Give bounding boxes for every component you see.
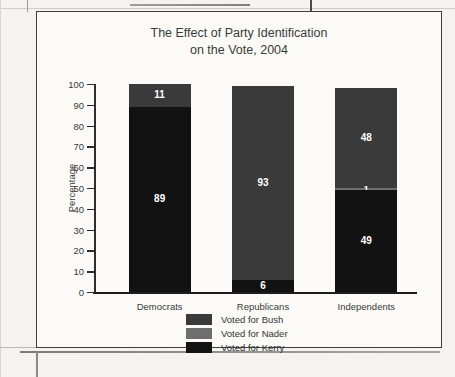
bar-segment-value-label: 48 [361, 133, 372, 143]
bar-segment[interactable]: 6 [232, 280, 294, 292]
scan-artifact-left-edge [0, 0, 1, 377]
chart-title-line-2: on the Vote, 2004 [37, 42, 441, 59]
y-axis-tick-label: 20 [73, 245, 84, 256]
y-axis-tick [87, 292, 94, 293]
x-axis-category-label: Independents [338, 301, 396, 312]
legend-color-swatch [186, 314, 212, 325]
y-axis-tick-label: 0 [79, 287, 84, 298]
legend-item-label: Voted for Bush [221, 314, 283, 325]
bar-segment-value-label: 93 [257, 178, 268, 188]
bar-segment[interactable]: 49 [335, 190, 397, 292]
x-axis-line [93, 292, 417, 294]
bar-group[interactable]: 936Republicans [232, 86, 294, 292]
y-axis-tick-label: 30 [73, 224, 84, 235]
y-axis-tick [87, 126, 94, 127]
y-axis-tick-label: 60 [73, 162, 84, 173]
y-axis-tick-label: 80 [73, 120, 84, 131]
scan-artifact-bottom-tick [36, 352, 38, 377]
y-axis-tick-label: 100 [68, 79, 84, 90]
legend-color-swatch [186, 342, 212, 353]
y-axis-tick-label: 50 [73, 183, 84, 194]
bar-stack[interactable]: 1189 [129, 84, 191, 292]
bar-segment-value-label: 6 [260, 281, 266, 291]
chart-legend: Voted for BushVoted for NaderVoted for K… [186, 314, 288, 356]
y-axis-line [94, 84, 96, 292]
bar-segment[interactable]: 11 [129, 84, 191, 107]
legend-item-label: Voted for Nader [221, 328, 288, 339]
y-axis-tick [87, 167, 94, 168]
bar-stack[interactable]: 936 [232, 86, 294, 292]
bar-segment-value-label: 49 [361, 236, 372, 246]
y-axis-tick [87, 250, 94, 251]
y-axis-tick [87, 146, 94, 147]
plot-area: Percentage 0102030405060708090100 1189De… [94, 84, 404, 292]
bar-group[interactable]: 1189Democrats [129, 84, 191, 292]
scan-artifact-top-hairline [0, 8, 455, 9]
chart-title: The Effect of Party Identification on th… [37, 25, 441, 59]
bar-segment-value-label: 89 [154, 194, 165, 204]
y-axis-tick-label: 70 [73, 141, 84, 152]
legend-item-label: Voted for Kerry [221, 342, 284, 353]
bar-stack[interactable]: 48149 [335, 88, 397, 292]
y-axis-tick [87, 84, 94, 85]
legend-item[interactable]: Voted for Nader [186, 328, 288, 339]
legend-color-swatch [186, 328, 212, 339]
bar-segment[interactable]: 93 [232, 86, 294, 279]
y-axis-tick-label: 40 [73, 203, 84, 214]
x-axis-category-label: Democrats [137, 301, 183, 312]
y-axis-tick [87, 209, 94, 210]
legend-item[interactable]: Voted for Kerry [186, 342, 288, 353]
chart-title-line-1: The Effect of Party Identification [151, 26, 328, 40]
scan-artifact-left-stub [27, 0, 28, 12]
legend-item[interactable]: Voted for Bush [186, 314, 288, 325]
y-axis-tick [87, 271, 94, 272]
y-axis-tick-label: 90 [73, 99, 84, 110]
bar-group[interactable]: 48149Independents [335, 88, 397, 292]
bar-segment-value-label: 11 [154, 90, 165, 100]
figure-frame: The Effect of Party Identification on th… [36, 11, 442, 348]
bar-segment[interactable]: 48 [335, 88, 397, 188]
y-axis-tick [87, 230, 94, 231]
y-axis-tick [87, 105, 94, 106]
scan-artifact-top-rule [130, 4, 250, 6]
bar-segment[interactable]: 89 [129, 107, 191, 292]
y-axis-tick-label: 10 [73, 266, 84, 277]
y-axis-tick [87, 188, 94, 189]
x-axis-category-label: Republicans [237, 301, 289, 312]
